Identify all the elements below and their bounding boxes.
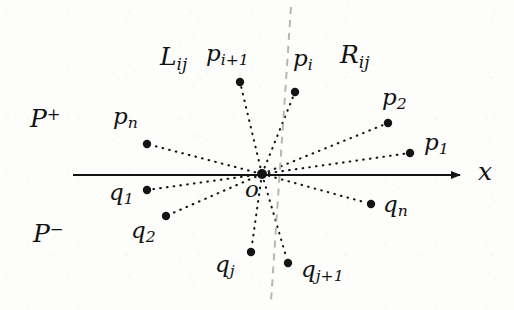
point-label-q-1: q1 bbox=[109, 181, 134, 207]
point-label-q-j-plus-1-base: q bbox=[301, 256, 316, 282]
region-label-L-ij-base: L bbox=[160, 42, 177, 71]
ray-to-q-1 bbox=[152, 175, 255, 189]
region-label-P-plus: P+ bbox=[30, 106, 61, 131]
point-dots-group bbox=[143, 78, 414, 267]
point-label-p-i-plus-1: pi+1 bbox=[206, 42, 249, 68]
point-label-q-j-subscript: j bbox=[230, 261, 235, 280]
point-dot-p-i-plus-1 bbox=[236, 78, 244, 86]
point-label-p-2-base: p bbox=[382, 84, 397, 110]
point-label-p-1-base: p bbox=[424, 129, 439, 155]
point-label-q-n-base: q bbox=[383, 191, 398, 217]
point-dot-p-i bbox=[291, 88, 299, 96]
ray-to-p-i bbox=[265, 97, 294, 168]
ray-to-p-1 bbox=[269, 154, 405, 173]
point-label-p-i-subscript: i bbox=[308, 55, 313, 74]
point-label-q-j-base: q bbox=[215, 251, 230, 277]
point-label-q-2-base: q bbox=[131, 217, 146, 243]
ray-to-p-n bbox=[152, 145, 255, 172]
point-label-p-1-subscript: 1 bbox=[439, 139, 449, 158]
bisector-dashed-line bbox=[271, 7, 291, 301]
point-label-p-i-plus-1-subscript: i+1 bbox=[221, 50, 249, 69]
point-label-p-2: p2 bbox=[382, 86, 407, 112]
point-label-p-i-base: p bbox=[293, 45, 308, 71]
ray-to-p-2 bbox=[268, 125, 383, 171]
point-label-q-1-subscript: 1 bbox=[124, 189, 134, 208]
region-label-R-ij-subscript: ij bbox=[359, 52, 370, 72]
region-label-P-plus-base: P bbox=[30, 104, 47, 133]
point-label-q-2: q2 bbox=[131, 219, 156, 245]
bisector-dashed-line bbox=[271, 7, 291, 301]
ray-to-q-n bbox=[269, 176, 366, 203]
point-label-q-n-subscript: n bbox=[398, 201, 408, 220]
point-dot-q-j-plus-1 bbox=[284, 259, 292, 267]
origin-label: o bbox=[245, 178, 259, 201]
ray-to-q-2 bbox=[171, 177, 256, 214]
axis-label-x-base: x bbox=[478, 157, 492, 186]
region-label-R-ij-base: R bbox=[340, 40, 359, 69]
point-dot-q-n bbox=[367, 200, 375, 208]
point-dot-q-2 bbox=[162, 212, 170, 220]
point-label-q-j: qj bbox=[215, 253, 235, 279]
region-label-L-ij: Lij bbox=[160, 44, 187, 73]
point-label-q-j-plus-1: qj+1 bbox=[301, 258, 344, 284]
point-label-p-n-subscript: n bbox=[128, 113, 138, 132]
point-label-q-j-plus-1-subscript: j+1 bbox=[316, 266, 344, 285]
axis-label-x: x bbox=[478, 159, 492, 184]
geometry-figure: LijRijP+P−pi+1pip2p1pnq1q2qjqj+1qnox bbox=[0, 0, 514, 310]
point-dot-p-2 bbox=[384, 119, 392, 127]
point-label-p-i: pi bbox=[293, 47, 313, 73]
point-label-p-1: p1 bbox=[424, 131, 449, 157]
point-label-q-1-base: q bbox=[109, 179, 124, 205]
point-dot-q-j bbox=[247, 248, 255, 256]
point-label-p-n: pn bbox=[113, 105, 138, 131]
region-label-R-ij: Rij bbox=[340, 42, 370, 71]
ray-to-p-i-plus-1 bbox=[241, 87, 260, 167]
point-label-p-2-subscript: 2 bbox=[397, 94, 407, 113]
point-label-q-2-subscript: 2 bbox=[146, 227, 156, 246]
point-label-p-i-plus-1-base: p bbox=[206, 40, 221, 66]
region-label-P-minus-superscript: − bbox=[50, 220, 64, 239]
point-dot-p-1 bbox=[406, 149, 414, 157]
region-label-P-plus-superscript: + bbox=[47, 105, 61, 124]
point-dot-q-1 bbox=[143, 186, 151, 194]
origin-label-base: o bbox=[245, 176, 259, 202]
point-label-q-n: qn bbox=[383, 193, 408, 219]
region-label-P-minus-base: P bbox=[33, 219, 50, 248]
point-dot-p-n bbox=[143, 140, 151, 148]
point-label-p-n-base: p bbox=[113, 103, 128, 129]
region-label-P-minus: P− bbox=[33, 221, 64, 246]
dotted-rays-group bbox=[152, 87, 405, 258]
region-label-L-ij-subscript: ij bbox=[177, 54, 188, 74]
